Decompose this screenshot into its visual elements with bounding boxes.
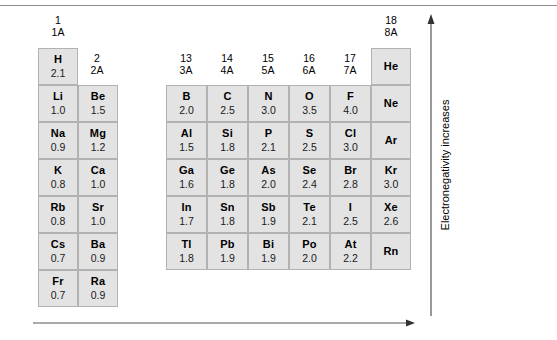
electronegativity-value: 0.9 [91, 253, 106, 264]
electronegativity-value: 2.5 [302, 142, 317, 153]
electronegativity-value: 2.1 [261, 142, 276, 153]
element-symbol: K [54, 165, 62, 177]
group-header-6a: 166A [289, 52, 329, 77]
element-symbol: Cl [345, 128, 356, 140]
element-symbol: Kr [385, 165, 398, 177]
electronegativity-value: 0.8 [51, 216, 66, 227]
group-number: 17 [330, 52, 370, 64]
element-cell-fr: Fr0.7 [38, 270, 78, 307]
group-alt-label: 2A [77, 64, 117, 76]
element-cell-al: Al1.5 [166, 122, 207, 159]
element-symbol: Cs [51, 239, 65, 251]
element-symbol: Na [51, 128, 65, 140]
group-number: 16 [289, 52, 329, 64]
element-cell-b: B2.0 [166, 85, 207, 122]
element-cell-cl: Cl3.0 [330, 122, 371, 159]
element-symbol: Sr [92, 202, 104, 214]
element-cell-ca: Ca1.0 [78, 159, 118, 196]
electronegativity-value: 2.4 [302, 179, 317, 190]
element-symbol: Se [303, 165, 317, 177]
element-cell-cs: Cs0.7 [38, 233, 78, 270]
element-symbol: Xe [384, 202, 398, 214]
element-symbol: Li [53, 91, 63, 103]
element-cell-na: Na0.9 [38, 122, 78, 159]
element-symbol: Si [222, 128, 233, 140]
element-symbol: Ga [179, 165, 194, 177]
element-cell-mg: Mg1.2 [78, 122, 118, 159]
element-symbol: N [264, 91, 272, 103]
electronegativity-value: 3.5 [302, 105, 317, 116]
element-symbol: Rb [50, 202, 65, 214]
element-cell-br: Br2.8 [330, 159, 371, 196]
group-alt-label: 8A [371, 26, 411, 38]
element-cell-o: O3.5 [289, 85, 330, 122]
group-number: 18 [371, 14, 411, 26]
element-cell-i: I2.5 [330, 196, 371, 233]
element-cell-se: Se2.4 [289, 159, 330, 196]
group-alt-label: 4A [207, 64, 247, 76]
element-cell-p: P2.1 [248, 122, 289, 159]
electronegativity-value: 3.0 [261, 105, 276, 116]
element-symbol: In [181, 202, 191, 214]
electronegativity-value: 2.0 [302, 253, 317, 264]
group-alt-label: 6A [289, 64, 329, 76]
electronegativity-value: 1.5 [179, 142, 194, 153]
element-cell-ba: Ba0.9 [78, 233, 118, 270]
group-number: 14 [207, 52, 247, 64]
element-cell-po: Po2.0 [289, 233, 330, 270]
element-symbol: Rn [383, 246, 398, 258]
electronegativity-value: 2.0 [261, 179, 276, 190]
top-divider-rule [0, 5, 557, 6]
element-cell-s: S2.5 [289, 122, 330, 159]
element-symbol: Tl [181, 239, 191, 251]
electronegativity-periodic-table-figure: 11A22A133A144A155A166A177A188A H2.1HeLi1… [0, 0, 557, 340]
group-number: 15 [248, 52, 288, 64]
electronegativity-value: 1.2 [91, 142, 106, 153]
element-cell-f: F4.0 [330, 85, 371, 122]
electronegativity-value: 2.6 [384, 216, 399, 227]
horizontal-trend-arrow [33, 318, 415, 328]
element-symbol: I [349, 202, 352, 214]
group-alt-label: 3A [166, 64, 206, 76]
element-cell-rb: Rb0.8 [38, 196, 78, 233]
element-symbol: P [265, 128, 273, 140]
electronegativity-value: 1.9 [261, 253, 276, 264]
element-symbol: Ar [385, 135, 398, 147]
electronegativity-value: 0.8 [51, 179, 66, 190]
electronegativity-value: 1.9 [261, 216, 276, 227]
element-symbol: Mg [90, 128, 106, 140]
vertical-trend-arrow-label-text: Electronegativity increases [439, 100, 451, 231]
element-symbol: Br [344, 165, 357, 177]
electronegativity-value: 2.0 [179, 105, 194, 116]
electronegativity-value: 2.1 [51, 68, 66, 79]
group-number: 13 [166, 52, 206, 64]
element-cell-he: He [371, 48, 411, 85]
element-cell-pb: Pb1.9 [207, 233, 248, 270]
element-symbol: Ra [91, 276, 105, 288]
vertical-trend-arrow [425, 14, 437, 316]
element-cell-in: In1.7 [166, 196, 207, 233]
electronegativity-value: 3.0 [343, 142, 358, 153]
element-cell-c: C2.5 [207, 85, 248, 122]
element-cell-sb: Sb1.9 [248, 196, 289, 233]
element-symbol: As [261, 165, 275, 177]
element-symbol: Te [303, 202, 315, 214]
electronegativity-value: 2.5 [220, 105, 235, 116]
group-alt-label: 5A [248, 64, 288, 76]
element-symbol: Sb [261, 202, 275, 214]
element-cell-k: K0.8 [38, 159, 78, 196]
element-symbol: Pb [220, 239, 234, 251]
element-cell-ne: Ne [371, 85, 411, 122]
element-symbol: C [223, 91, 231, 103]
element-cell-bi: Bi1.9 [248, 233, 289, 270]
electronegativity-value: 0.7 [51, 253, 66, 264]
element-cell-sr: Sr1.0 [78, 196, 118, 233]
element-symbol: S [306, 128, 314, 140]
group-header-7a: 177A [330, 52, 370, 77]
element-cell-xe: Xe2.6 [371, 196, 411, 233]
element-symbol: H [54, 54, 62, 66]
element-symbol: Po [302, 239, 316, 251]
element-symbol: Ne [384, 98, 398, 110]
electronegativity-value: 0.9 [51, 142, 66, 153]
element-cell-h: H2.1 [38, 48, 78, 85]
